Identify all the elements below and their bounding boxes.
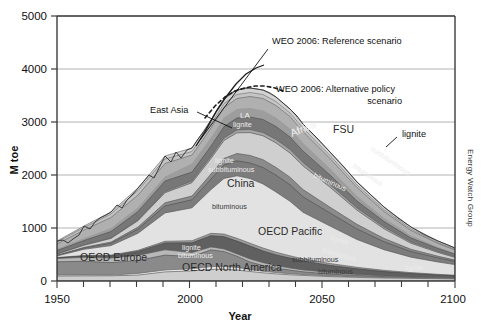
label-china-bituminous: bituminous [212, 202, 247, 211]
callout-east-asia-text: East Asia [150, 105, 189, 115]
label-china-subbituminous: subbituminous [208, 165, 255, 174]
x-tick-1950: 1950 [44, 293, 70, 305]
callout-weo-alternative-line1: WEO 2006: Alternative policy [276, 84, 395, 94]
label-china-lignite: lignite [215, 156, 234, 165]
y-tick-3000: 3000 [21, 116, 47, 128]
coal-production-figure: 5000 4000 3000 2000 1000 0 1950 2000 205… [0, 0, 481, 327]
label-europe-bituminous: bituminous [178, 251, 213, 260]
x-tick-2100: 2100 [440, 293, 466, 305]
callout-weo-alternative-line2: scenario [367, 96, 402, 106]
watermark-energy-watch-group: Energy Watch Group [466, 149, 475, 227]
label-oecd-europe: OECD Europe [80, 251, 147, 263]
y-tick-4000: 4000 [21, 63, 47, 75]
callout-fsu-lignite-text: lignite [402, 129, 426, 139]
x-tick-2000: 2000 [177, 293, 203, 305]
y-axis-label: M toe [8, 146, 20, 175]
x-tick-2050: 2050 [309, 293, 335, 305]
callout-weo-reference-text: WEO 2006: Reference scenario [272, 36, 402, 46]
x-axis-label: Year [228, 310, 252, 322]
y-ticks [51, 16, 57, 281]
label-fsu: FSU [333, 123, 354, 135]
y-tick-1000: 1000 [21, 222, 47, 234]
chart-svg: 5000 4000 3000 2000 1000 0 1950 2000 205… [0, 0, 481, 327]
y-tick-5000: 5000 [21, 10, 47, 22]
label-right-lignite: lignite [405, 263, 424, 272]
label-oecd-north-america: OECD North America [182, 261, 282, 273]
label-oecd-pacific: OECD Pacific [258, 225, 322, 237]
label-na-bituminous: bituminous [318, 267, 353, 276]
label-latin-america: LA [240, 111, 250, 120]
y-tick-2000: 2000 [21, 169, 47, 181]
label-la-lignite: lignite [233, 120, 252, 129]
x-ticks [57, 281, 455, 288]
label-china: China [227, 177, 255, 189]
y-tick-0: 0 [41, 275, 47, 287]
